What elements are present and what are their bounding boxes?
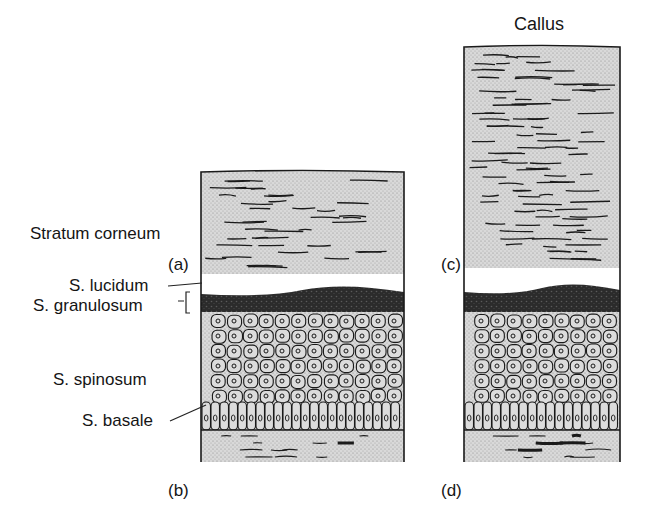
keratin-flake	[515, 104, 552, 105]
spinous-cell	[260, 360, 274, 373]
basal-cell	[465, 402, 474, 430]
spinous-cell	[292, 330, 306, 343]
spinous-cell	[372, 375, 386, 388]
dermis-region	[201, 430, 404, 462]
keratin-flake	[566, 232, 585, 233]
spinous-cell	[539, 375, 553, 388]
keratin-flake	[355, 252, 381, 253]
basal-cell	[391, 402, 400, 430]
keratin-flake	[268, 195, 292, 196]
keratin-flake	[242, 221, 266, 222]
keratin-flake	[536, 216, 560, 217]
spinous-cell	[507, 360, 521, 373]
spinous-cell	[475, 345, 489, 358]
spinous-cell	[571, 390, 585, 403]
spinous-cell	[291, 360, 305, 373]
basal-cell	[609, 402, 618, 430]
basal-cell	[483, 402, 492, 430]
spinous-cell	[571, 344, 585, 357]
connective-fiber	[240, 449, 263, 450]
panel-label-b: (b)	[168, 481, 189, 501]
spinous-cell	[324, 330, 338, 343]
spinous-cell	[555, 389, 569, 402]
spinous-cell	[571, 330, 585, 343]
stratum-granulosum-label: S. granulosum	[33, 296, 143, 316]
spinous-cell	[228, 315, 242, 328]
spinous-cell	[292, 314, 306, 327]
dermis-region	[464, 430, 620, 462]
keratin-flake	[552, 100, 571, 101]
spinous-cell	[522, 344, 536, 357]
spinous-cell	[244, 314, 258, 327]
keratin-flake	[278, 252, 308, 253]
spinous-cell	[276, 360, 290, 373]
stratum-lucidum-label: S. lucidum	[69, 276, 148, 296]
keratin-flake	[324, 258, 349, 259]
spinous-cell	[291, 375, 305, 388]
spinous-cell	[555, 374, 569, 387]
spinous-cell	[228, 330, 242, 343]
basal-cell	[310, 402, 319, 430]
callus-skin-section	[464, 46, 620, 463]
connective-fiber	[536, 443, 564, 444]
basal-cell	[555, 402, 564, 430]
spinous-cell	[507, 345, 521, 358]
keratin-flake	[487, 126, 524, 127]
spinous-cell	[507, 375, 521, 388]
keratin-flake	[536, 134, 557, 135]
spinous-cell	[387, 389, 401, 402]
spinous-cell	[339, 374, 353, 387]
basal-cell	[220, 402, 229, 430]
keratin-flake	[535, 70, 575, 71]
spinous-cell	[539, 315, 553, 328]
spinous-cell	[571, 374, 585, 387]
basal-cell	[301, 402, 310, 430]
callus-title: Callus	[514, 14, 564, 34]
spinous-cell	[570, 360, 584, 373]
keratin-flake	[477, 77, 499, 78]
keratin-flake	[247, 266, 283, 267]
basal-cell	[292, 402, 301, 430]
basal-cell	[382, 402, 391, 430]
keratin-flake	[480, 202, 498, 203]
basal-cell	[591, 402, 600, 430]
keratin-flake	[222, 257, 252, 258]
spinous-cell	[490, 390, 504, 403]
spinous-cell	[506, 389, 520, 402]
panel-label-a: (a)	[168, 255, 189, 275]
keratin-flake	[506, 244, 522, 245]
spinous-cell	[538, 329, 552, 342]
spinous-cell	[539, 360, 553, 373]
keratin-flake	[307, 245, 330, 246]
spinous-cell	[355, 375, 369, 388]
keratin-flake	[496, 63, 510, 64]
spinous-cell	[307, 359, 321, 372]
spinous-cell	[555, 314, 569, 327]
spinous-cell	[356, 345, 370, 358]
spinous-cell	[276, 344, 290, 357]
spinous-cell	[371, 315, 385, 328]
keratin-flake	[516, 169, 550, 170]
keratin-flake	[554, 84, 576, 85]
spinous-cell	[602, 315, 616, 328]
epidermis-illustration	[0, 0, 645, 531]
basal-cell	[474, 402, 483, 430]
keratin-flake	[553, 225, 584, 226]
spinous-cell	[586, 344, 600, 357]
spinous-cell	[387, 360, 401, 373]
basal-cell	[582, 402, 591, 430]
spinous-cell	[539, 344, 553, 357]
spinous-cell	[554, 330, 568, 343]
spinous-cell	[212, 330, 226, 343]
spinous-cell	[355, 315, 369, 328]
spinous-cell	[587, 330, 601, 343]
basal-cell	[564, 402, 573, 430]
keratin-flake	[517, 148, 545, 149]
spinous-cell	[507, 329, 521, 342]
spinous-cell	[339, 390, 353, 403]
spinous-cell	[324, 315, 338, 328]
keratin-flake	[562, 219, 587, 220]
basal-cell	[256, 402, 265, 430]
spinous-cell	[259, 315, 273, 328]
basal-cell	[492, 402, 501, 430]
